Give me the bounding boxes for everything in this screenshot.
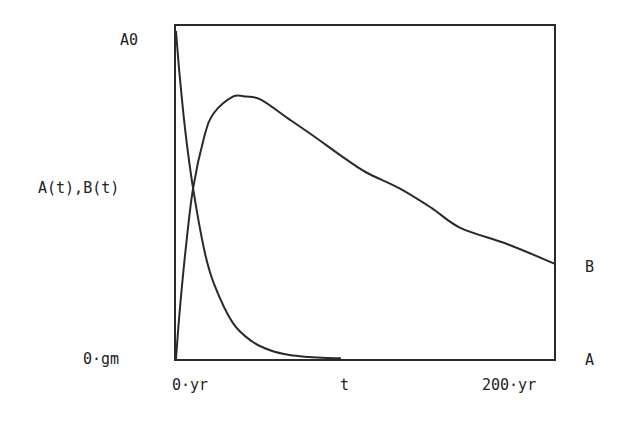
x-tick-label-right: 200·yr: [482, 376, 536, 394]
x-tick-label-left: 0·yr: [172, 376, 208, 394]
series-group: [176, 31, 555, 359]
series-end-label-a: A: [585, 351, 594, 369]
y-tick-label-top: A0: [120, 31, 138, 49]
x-axis-label: t: [340, 376, 349, 394]
series-line-b: [176, 95, 555, 359]
plot-frame: [175, 25, 555, 360]
chart: A0 0·gm A(t),B(t) 0·yr 200·yr t B A: [0, 0, 635, 422]
y-tick-label-bottom: 0·gm: [83, 350, 119, 368]
y-axis-label: A(t),B(t): [38, 179, 119, 197]
series-line-a: [176, 31, 341, 358]
series-end-label-b: B: [585, 258, 594, 276]
